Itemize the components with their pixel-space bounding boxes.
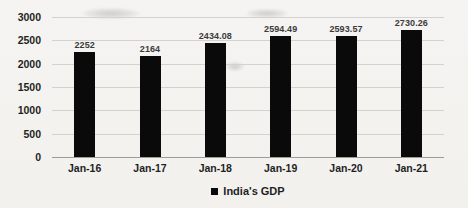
- data-label: 2594.49: [264, 24, 297, 34]
- y-tick-label: 1000: [18, 104, 41, 116]
- data-label: 2164: [140, 44, 160, 54]
- gridline: [52, 110, 444, 111]
- bar-jan-21: [401, 30, 422, 157]
- bar-jan-19: [270, 36, 291, 157]
- x-category-label: Jan-20: [329, 162, 362, 174]
- y-tick-label: 2500: [18, 34, 41, 46]
- y-tick-label: 0: [35, 151, 41, 163]
- x-category-label: Jan-17: [133, 162, 166, 174]
- plot-area: 225221642434.082594.492593.572730.26: [52, 17, 444, 157]
- bar-jan-17: [140, 56, 161, 157]
- legend: India's GDP: [52, 185, 444, 197]
- legend-series-label: India's GDP: [223, 185, 284, 197]
- legend-square-marker-icon: [211, 188, 218, 195]
- y-tick-label: 500: [23, 128, 41, 140]
- y-tick-label: 1500: [18, 81, 41, 93]
- gdp-bar-chart: 050010001500200025003000 225221642434.08…: [0, 0, 468, 208]
- data-label: 2252: [74, 40, 94, 50]
- data-label: 2593.57: [329, 24, 362, 34]
- x-axis-line: [52, 157, 444, 158]
- gridline: [52, 17, 444, 18]
- gridline: [52, 87, 444, 88]
- x-category-label: Jan-19: [264, 162, 297, 174]
- bar-jan-18: [205, 43, 226, 157]
- x-category-label: Jan-18: [199, 162, 232, 174]
- y-axis-ticks: 050010001500200025003000: [0, 17, 47, 157]
- bar-jan-16: [74, 52, 95, 157]
- x-category-label: Jan-16: [68, 162, 101, 174]
- data-label: 2730.26: [395, 18, 428, 28]
- y-tick-label: 2000: [18, 58, 41, 70]
- gridline: [52, 64, 444, 65]
- gridline: [52, 134, 444, 135]
- y-tick-label: 3000: [18, 11, 41, 23]
- bar-jan-20: [336, 36, 357, 157]
- gridline: [52, 40, 444, 41]
- data-label: 2434.08: [199, 31, 232, 41]
- x-category-label: Jan-21: [395, 162, 428, 174]
- x-axis-labels: Jan-16Jan-17Jan-18Jan-19Jan-20Jan-21: [52, 162, 444, 176]
